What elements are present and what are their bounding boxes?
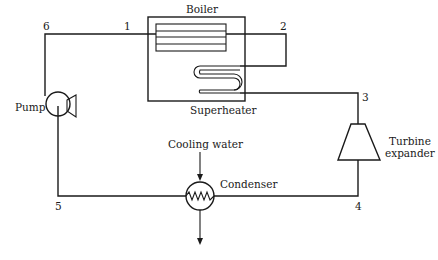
pump-label: Pump (15, 101, 46, 113)
boiler: Boiler (148, 3, 245, 101)
state-point-3: 3 (362, 91, 369, 103)
state-point-4: 4 (355, 200, 362, 212)
cooling-water-label: Cooling water (168, 138, 244, 150)
condenser: Condenser (186, 178, 278, 210)
turbine-label-line1: Turbine (389, 135, 431, 147)
pipe-2-to-3 (240, 93, 358, 124)
state-point-1: 1 (124, 20, 131, 32)
turbine-icon (338, 124, 380, 160)
pipe-1-to-2 (226, 34, 286, 66)
turbine-label-line2: expander (385, 147, 436, 159)
turbine-expander: Turbine expander (338, 124, 436, 160)
boiler-label: Boiler (186, 3, 219, 15)
cooling-water: Cooling water (168, 138, 244, 245)
state-point-6: 6 (43, 20, 50, 32)
pipe-6-to-pump (45, 34, 156, 96)
cooling-water-out-arrow-icon (197, 238, 203, 245)
condenser-label: Condenser (220, 178, 278, 190)
cooling-water-in-arrow-icon (197, 174, 203, 181)
state-point-2: 2 (280, 20, 287, 32)
superheater-coil: Superheater (190, 66, 258, 116)
boiler-enclosure (148, 17, 245, 101)
pipe-pump-to-5 (58, 106, 186, 196)
rankine-cycle-diagram: Boiler Superheater Turbine expander Cond… (0, 0, 438, 260)
condenser-coil-icon (186, 192, 214, 200)
superheater-label: Superheater (190, 104, 258, 116)
state-point-5: 5 (55, 200, 62, 212)
